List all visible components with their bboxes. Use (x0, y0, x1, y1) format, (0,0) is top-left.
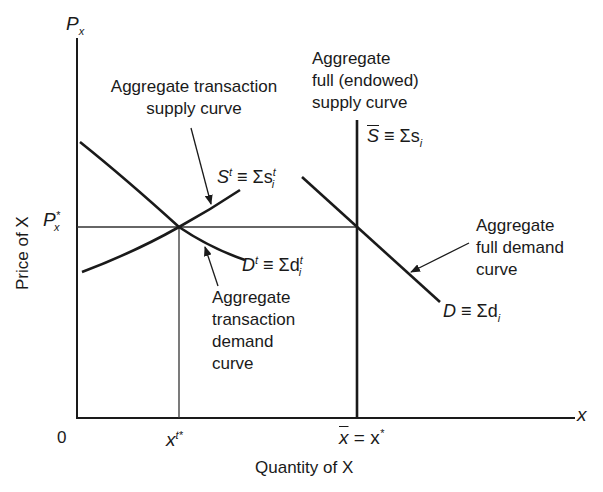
transaction-supply-arrow (191, 128, 211, 204)
y-axis-title: Price of X (13, 216, 33, 290)
origin-label: 0 (57, 428, 66, 448)
x-axis-title: Quantity of X (255, 458, 353, 478)
transaction-demand-curve (80, 142, 245, 260)
full-demand-arrow (411, 243, 469, 272)
x-axis-symbol: x (577, 405, 587, 425)
full-demand-label: D ≡ Σdi (443, 301, 500, 321)
transaction-demand-arrow (205, 247, 218, 286)
full-demand-annotation: Aggregate full demand curve (476, 215, 564, 281)
full-supply-annotation: Aggregate full (endowed) supply curve (312, 48, 419, 114)
y-axis-symbol: Px (66, 14, 84, 34)
full-demand-curve (302, 177, 440, 302)
transaction-supply-annotation: Aggregate transaction supply curve (84, 76, 304, 120)
transaction-quantity-tick: xt* (166, 430, 183, 450)
equilibrium-price-tick: P*x (43, 210, 59, 230)
transaction-demand-annotation: Aggregate transaction demand curve (212, 287, 295, 375)
transaction-supply-label: St ≡ Σsti (217, 167, 274, 187)
full-quantity-tick: x = x* (339, 428, 384, 448)
transaction-supply-curve (82, 190, 240, 272)
transaction-demand-label: Dt ≡ Σdti (242, 255, 301, 275)
full-supply-label: S ≡ Σsi (367, 126, 422, 146)
